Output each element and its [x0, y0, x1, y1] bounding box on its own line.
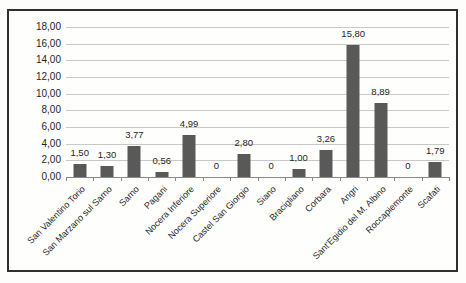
x-axis-tick	[394, 177, 395, 181]
x-axis-tick	[121, 177, 122, 181]
bar-value-label: 0	[214, 160, 219, 171]
bar-value-label: 1,79	[426, 145, 445, 156]
x-axis-tick	[312, 177, 313, 181]
x-axis-tick	[230, 177, 231, 181]
bar-value-label: 15,80	[341, 28, 365, 39]
y-axis-label: 14,00	[15, 55, 61, 65]
bar-value-label: 0	[405, 160, 410, 171]
bar-value-label: 1,00	[289, 152, 308, 163]
bar-value-label: 1,30	[98, 149, 117, 160]
bar-bracigliano	[292, 169, 305, 177]
y-axis-label: 8,00	[15, 105, 61, 115]
bar-value-label: 0,56	[152, 155, 171, 166]
x-axis-tick	[340, 177, 341, 181]
bar-slot: 3,26	[312, 27, 339, 177]
bar-value-label: 2,80	[235, 137, 254, 148]
bar-san-marzano-sul-sarno	[101, 166, 114, 177]
x-axis-tick	[93, 177, 94, 181]
bar-value-label: 3,77	[125, 129, 144, 140]
chart-frame: 18,0016,0014,0012,0010,008,006,004,002,0…	[7, 9, 458, 272]
bar-slot: 0	[394, 27, 421, 177]
x-axis-tick	[175, 177, 176, 181]
x-axis-tick	[285, 177, 286, 181]
x-axis-tick	[367, 177, 368, 181]
bar-pagani	[155, 172, 168, 177]
plot-area: 18,0016,0014,0012,0010,008,006,004,002,0…	[66, 27, 449, 178]
y-axis-label: 16,00	[15, 39, 61, 49]
x-axis-tick	[203, 177, 204, 181]
x-axis-tick	[422, 177, 423, 181]
bar-slot: 2,80	[230, 27, 257, 177]
y-axis-label: 10,00	[15, 89, 61, 99]
bar-sant-egidio-del-m-albino	[374, 103, 387, 177]
y-axis-label: 2,00	[15, 155, 61, 165]
bar-slot: 4,99	[175, 27, 202, 177]
bar-value-label: 3,26	[317, 133, 336, 144]
bar-slot: 1,30	[93, 27, 120, 177]
bar-value-label: 0	[269, 160, 274, 171]
bar-slot: 1,50	[66, 27, 93, 177]
y-axis-label: 6,00	[15, 122, 61, 132]
bar-slot: 1,00	[285, 27, 312, 177]
bar-value-label: 1,50	[70, 147, 89, 158]
x-axis-tick	[66, 177, 67, 181]
bar-scafati	[429, 162, 442, 177]
bar-angri	[347, 45, 360, 177]
category-label: San Valentino Torio	[0, 184, 87, 283]
x-axis-tick	[148, 177, 149, 181]
y-axis-label: 18,00	[15, 22, 61, 32]
bar-slot: 3,77	[121, 27, 148, 177]
bar-slot: 0	[203, 27, 230, 177]
bar-corbara	[319, 150, 332, 177]
bar-nocera-inferiore	[183, 135, 196, 177]
x-axis-tick	[258, 177, 259, 181]
y-axis-label: 0,00	[15, 172, 61, 182]
bar-slot: 0	[258, 27, 285, 177]
bar-slot: 1,79	[422, 27, 449, 177]
scanned-chart-page: { "chart_data": { "type": "bar", "title"…	[0, 0, 466, 283]
bar-slot: 0,56	[148, 27, 175, 177]
y-axis-label: 4,00	[15, 139, 61, 149]
bar-slot: 8,89	[367, 27, 394, 177]
bar-value-label: 8,89	[371, 86, 390, 97]
bar-castel-san-giorgio	[237, 154, 250, 177]
x-axis-tick	[449, 177, 450, 181]
bar-slot: 15,80	[340, 27, 367, 177]
y-axis-label: 12,00	[15, 72, 61, 82]
bar-san-valentino-torio	[73, 164, 86, 177]
bar-value-label: 4,99	[180, 118, 199, 129]
bar-sarno	[128, 146, 141, 177]
